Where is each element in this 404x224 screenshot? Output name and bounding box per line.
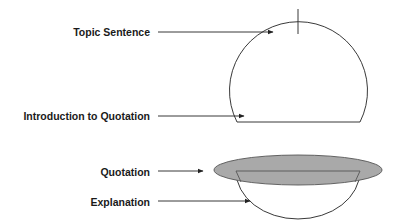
quotation-ellipse [214,155,382,185]
paragraph-structure-diagram [0,0,404,224]
topic-shape [230,22,368,122]
